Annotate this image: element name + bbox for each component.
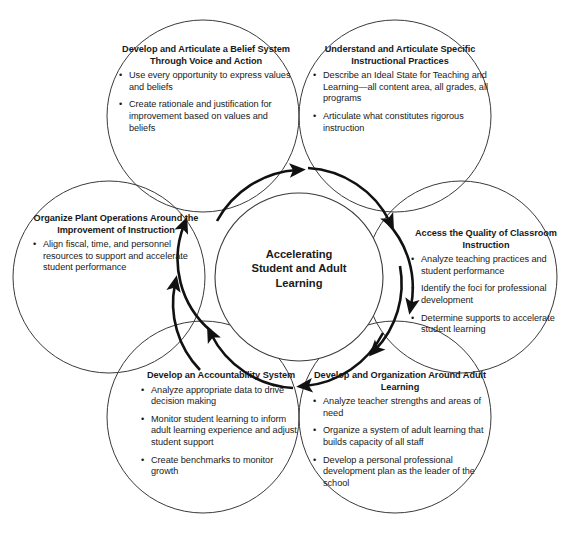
center-label-line3: Learning [219, 276, 379, 290]
list-item: •Identify the foci for professional deve… [410, 283, 562, 306]
bullet-text: Organize a system of adult learning that… [323, 425, 483, 447]
bullet-icon: • [33, 239, 36, 251]
node-plant: Organize Plant Operations Around the Imp… [32, 213, 200, 274]
list-item: •Analyze teaching practices and student … [410, 254, 562, 277]
list-item: •Monitor student learning to inform adul… [140, 414, 302, 449]
bullet-text: Describe an Ideal State for Teaching and… [323, 70, 488, 103]
bullet-text: Analyze teaching practices and student p… [421, 254, 547, 276]
bullet-icon: • [411, 254, 414, 266]
node-adult: Develop and Organization Around Adult Le… [312, 370, 488, 489]
list-item: •Articulate what constitutes rigorous in… [312, 111, 488, 134]
bullet-icon: • [119, 70, 122, 82]
bullet-icon: • [313, 70, 316, 82]
bullet-text: Create rationale and justification for i… [129, 99, 272, 132]
node-account: Develop an Accountability System •Analyz… [140, 370, 302, 478]
bullet-icon: • [119, 99, 122, 111]
bullet-icon: • [313, 425, 316, 437]
list-item: •Analyze appropriate data to drive decis… [140, 385, 302, 408]
bullet-icon: • [411, 283, 414, 295]
center-label-line2: Student and Adult [219, 261, 379, 275]
bullet-icon: • [313, 455, 316, 467]
list-item: •Describe an Ideal State for Teaching an… [312, 70, 488, 105]
node-quality-bullets: •Analyze teaching practices and student … [410, 254, 562, 336]
list-item: •Analyze teacher strengths and areas of … [312, 396, 488, 419]
bullet-text: Analyze appropriate data to drive decisi… [151, 385, 284, 407]
list-item: •Use every opportunity to express values… [118, 70, 294, 93]
bullet-text: Determine supports to accelerate student… [421, 313, 555, 335]
center-label-line1: Accelerating [219, 247, 379, 261]
bullet-text: Develop a personal professional developm… [323, 455, 475, 488]
bullet-text: Identify the foci for professional devel… [421, 283, 546, 305]
bullet-text: Articulate what constitutes rigorous ins… [323, 111, 464, 133]
node-adult-title: Develop and Organization Around Adult Le… [312, 370, 488, 393]
arrow-quality-up [386, 221, 413, 306]
node-plant-title: Organize Plant Operations Around the Imp… [32, 213, 200, 236]
bullet-icon: • [141, 385, 144, 397]
list-item: •Determine supports to accelerate studen… [410, 313, 562, 336]
bullet-text: Create benchmarks to monitor growth [151, 455, 273, 477]
node-practices-bullets: •Describe an Ideal State for Teaching an… [312, 70, 488, 134]
node-quality-title: Access the Quality of Classroom Instruct… [410, 228, 562, 251]
node-adult-bullets: •Analyze teacher strengths and areas of … [312, 396, 488, 489]
node-belief-title: Develop and Articulate a Belief System T… [118, 44, 294, 67]
list-item: •Align fiscal, time, and personnel resou… [32, 239, 200, 274]
node-plant-bullets: •Align fiscal, time, and personnel resou… [32, 239, 200, 274]
node-belief-bullets: •Use every opportunity to express values… [118, 70, 294, 134]
list-item: •Develop a personal professional develop… [312, 455, 488, 490]
bullet-icon: • [411, 313, 414, 325]
diagram-canvas: Develop and Articulate a Belief System T… [0, 0, 571, 533]
bullet-icon: • [313, 396, 316, 408]
node-account-title: Develop an Accountability System [140, 370, 302, 382]
node-practices: Understand and Articulate Specific Instr… [312, 44, 488, 134]
list-item: •Organize a system of adult learning tha… [312, 425, 488, 448]
bullet-text: Monitor student learning to inform adult… [151, 414, 297, 447]
node-practices-title: Understand and Articulate Specific Instr… [312, 44, 488, 67]
center-label: Accelerating Student and Adult Learning [219, 247, 379, 290]
circle-plant [13, 181, 205, 373]
node-belief: Develop and Articulate a Belief System T… [118, 44, 294, 134]
bullet-text: Align fiscal, time, and personnel resour… [43, 239, 188, 272]
node-account-bullets: •Analyze appropriate data to drive decis… [140, 385, 302, 478]
bullet-icon: • [141, 455, 144, 467]
list-item: •Create benchmarks to monitor growth [140, 455, 302, 478]
bullet-text: Analyze teacher strengths and areas of n… [323, 396, 481, 418]
bullet-text: Use every opportunity to express values … [129, 70, 290, 92]
bullet-icon: • [141, 414, 144, 426]
bullet-icon: • [313, 111, 316, 123]
node-quality: Access the Quality of Classroom Instruct… [410, 228, 562, 336]
list-item: •Create rationale and justification for … [118, 99, 294, 134]
